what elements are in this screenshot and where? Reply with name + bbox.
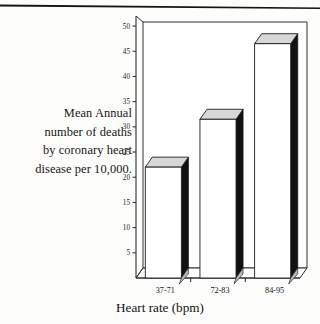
y-axis-tick-label: 40 [123,73,131,81]
figure-panel: Mean Annual number of deaths by coronary… [0,0,320,324]
plot-left-wall [136,16,143,278]
bar-side-face [236,109,243,278]
y-axis-tick-label: 25 [123,149,131,157]
y-axis-tick-label: 5 [126,249,130,257]
y-axis-tick-label: 20 [123,174,131,182]
x-axis-title: Heart rate (bpm) [0,300,320,316]
y-axis-tick-label: 30 [123,123,131,131]
x-axis-category-label: 72-83 [210,286,229,295]
bar-side-face [181,157,188,278]
x-axis-category-label: 37-71 [156,286,175,295]
bar-front-face [145,167,181,278]
bar [145,157,188,284]
y-axis-tick-label: 45 [123,48,131,56]
x-axis-category-label: 84-95 [265,286,284,295]
bar-top-face [200,109,243,119]
y-axis-tick-label: 15 [123,199,131,207]
bar [255,34,298,284]
x-axis-category-labels: 37-7172-8384-95 [156,286,284,295]
bar-front-face [200,119,236,278]
bar-chart: 5101520253035404550 37-7172-8384-95 [0,0,320,324]
bar-side-face [291,34,298,278]
bar-chart-svg: 5101520253035404550 37-7172-8384-95 [0,0,320,324]
y-axis-ticks: 5101520253035404550 [123,23,136,258]
bar-front-face [255,44,291,278]
y-axis-tick-label: 35 [123,98,131,106]
bar-top-face [145,157,188,167]
y-axis-tick-label: 50 [123,23,131,31]
bar [200,109,243,284]
y-axis-tick-label: 10 [123,224,131,232]
bar-top-face [255,34,298,44]
